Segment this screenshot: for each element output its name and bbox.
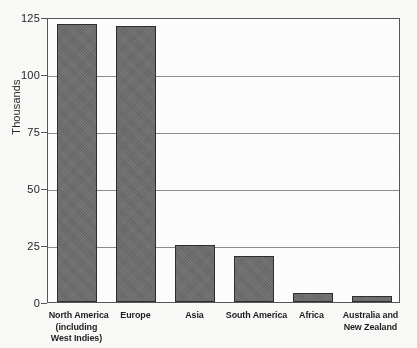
gridline	[48, 133, 399, 134]
x-axis-label: Europe	[108, 309, 163, 321]
x-axis-label: Asia	[166, 309, 221, 321]
plot-area	[47, 18, 400, 303]
x-axis-label: Australia andNew Zealand	[343, 309, 398, 332]
x-axis-label-line: Europe	[108, 309, 163, 321]
bar	[293, 293, 333, 302]
bar-chart: Thousands 0255075100125 North America(in…	[0, 0, 417, 348]
x-axis-label-line: Australia and	[343, 309, 398, 321]
gridline	[48, 76, 399, 77]
bar	[352, 296, 392, 302]
y-axis-tick-label: 0	[0, 297, 40, 309]
y-axis-tick-label: 25	[0, 240, 40, 252]
bar	[175, 245, 215, 302]
y-axis-tick-label: 75	[0, 126, 40, 138]
y-axis-tick-mark	[41, 132, 47, 133]
x-axis-label-line: North America	[49, 309, 104, 321]
x-axis-label: South America	[225, 309, 280, 321]
y-axis-tick-mark	[41, 75, 47, 76]
y-axis-tick-mark	[41, 303, 47, 304]
x-axis-label-line: New Zealand	[343, 321, 398, 333]
y-axis-tick-mark	[41, 246, 47, 247]
x-axis-label: North America(includingWest Indies)	[49, 309, 104, 344]
x-axis-label-line: Asia	[166, 309, 221, 321]
y-axis-tick-label: 50	[0, 183, 40, 195]
y-axis-tick-mark	[41, 18, 47, 19]
y-axis-tick-label: 125	[0, 12, 40, 24]
x-axis-label: Africa	[284, 309, 339, 321]
x-axis-label-line: Africa	[284, 309, 339, 321]
x-axis-label-line: (including	[49, 321, 104, 333]
y-axis-tick-label: 100	[0, 69, 40, 81]
bar	[116, 26, 156, 302]
x-axis-label-line: West Indies)	[49, 332, 104, 344]
y-axis-tick-mark	[41, 189, 47, 190]
gridline	[48, 190, 399, 191]
x-axis-label-line: South America	[225, 309, 280, 321]
bar	[57, 24, 97, 302]
gridline	[48, 247, 399, 248]
bar	[234, 256, 274, 302]
